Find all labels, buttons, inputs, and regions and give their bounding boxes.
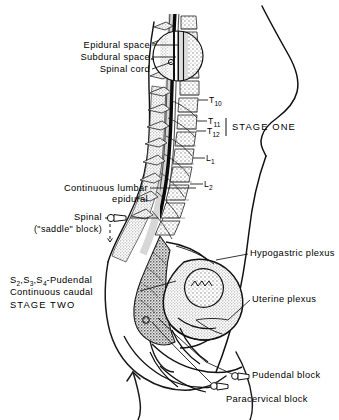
vertebra-label-t12: T12 [207,126,220,140]
gravid-uterus [163,259,242,364]
label-subdural-space: Subdural space [48,52,150,63]
needle-hub-paracervical [211,383,228,390]
dashed-down-arrow [108,224,113,242]
vertebra-label-l2: L2 [204,179,213,193]
vertebra-label-l1: L1 [206,153,215,167]
label-hypogastric-plexus: Hypogastric plexus [250,248,335,259]
needle-hub-saddle [105,214,126,221]
label-paracervical-block: Paracervical block [226,394,308,405]
vertebra-label-t10: T10 [209,95,222,109]
label-saddle-block: ("saddle" block) [2,224,102,235]
pudendal-roots-text: S2,S3,S4-Pudendal [10,275,92,285]
label-epidural: epidural [38,194,148,205]
label-continuous-caudal: Continuous caudal [10,287,93,298]
anatomy-illustration [0,0,339,420]
label-stage-two: STAGE TWO [10,299,75,310]
figure-canvas: Epidural space Subdural space Spinal cor… [0,0,339,420]
label-epidural-space: Epidural space [48,40,150,51]
label-spinal-cord: Spinal cord [48,64,150,75]
label-uterine-plexus: Uterine plexus [252,294,316,305]
label-spinal: Spinal [40,212,102,223]
label-continuous-lumbar: Continuous lumbar [38,183,148,194]
label-pudendal-block: Pudendal block [252,370,320,381]
label-stage-one: STAGE ONE [232,121,296,132]
